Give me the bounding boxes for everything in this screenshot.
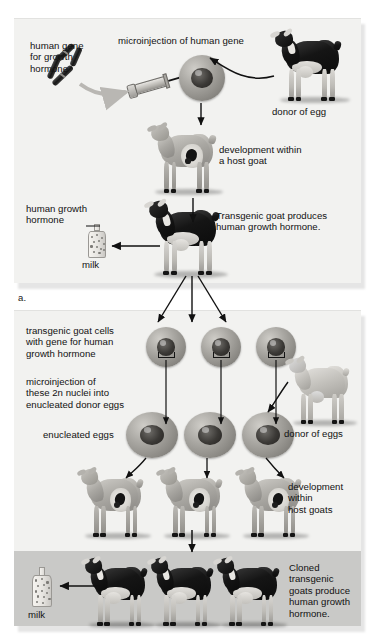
label-microinjection-nuclei: microinjection of these 2n nuclei into e…: [26, 376, 154, 410]
host-goat-pregnant-b-1: [78, 466, 150, 538]
milk-bottle-a: [86, 224, 108, 258]
label-development-host-goats: development within host goats: [288, 481, 366, 515]
label-human-growth-hormone: human growth hormone: [26, 203, 118, 226]
cloned-transgenic-goat-2: [148, 555, 220, 627]
cloned-transgenic-goat-3: [214, 555, 286, 627]
label-milk-b: milk: [28, 609, 68, 620]
transgenic-goat-adult: [146, 198, 226, 276]
donor-goat-dark: [272, 28, 348, 102]
label-development-host-goat: development within a host goat: [219, 144, 343, 167]
host-goat-pregnant-a: [148, 122, 222, 194]
label-transgenic-cells: transgenic goat cells with gene for huma…: [26, 325, 144, 359]
host-goat-pregnant-b-2: [157, 466, 229, 538]
milk-bottle-b: [30, 567, 54, 607]
label-transgenic-produces: Transgenic goat produces human growth ho…: [216, 210, 362, 233]
panel-a-label: a.: [18, 292, 26, 303]
label-microinjection: microinjection of human gene: [118, 35, 278, 46]
transgenic-cell-2: [201, 327, 241, 367]
donor-goat-eggs-light: [286, 355, 356, 425]
label-cloned-transgenic: Cloned transgenic goats produce human gr…: [289, 562, 371, 619]
label-milk-a: milk: [82, 259, 122, 270]
transgenic-cell-1: [146, 327, 186, 367]
figure-canvas: a.: [0, 0, 375, 644]
label-donor-of-eggs: donor of eggs: [284, 428, 364, 439]
label-human-gene: human gene for growth hormone: [30, 40, 116, 74]
label-enucleated-eggs: enucleated eggs: [43, 429, 147, 440]
cloned-transgenic-goat-1: [82, 555, 154, 627]
label-donor-of-egg: donor of egg: [272, 106, 358, 117]
enucleated-egg-2: [184, 412, 236, 458]
egg-cell-injected: [179, 55, 225, 101]
